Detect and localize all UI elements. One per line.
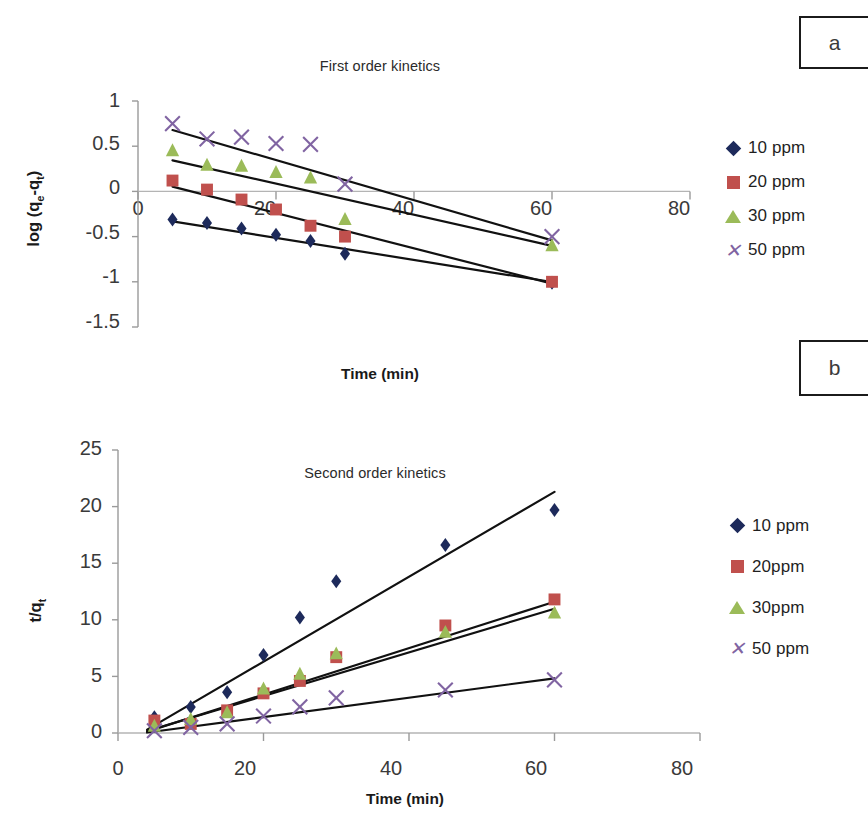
triangle-marker-icon [722,210,744,223]
legend-item-30ppm[interactable]: 30 ppm [722,199,805,233]
legend-label-10ppm-b: 10 ppm [752,516,809,536]
legend-item-20ppm-b[interactable]: 20ppm [726,546,809,587]
legend-item-10ppm[interactable]: 10 ppm [722,131,805,165]
legend-label-30ppm-b: 30ppm [752,598,804,618]
chart-a-legend: 10 ppm 20 ppm 30 ppm ✕ 50 ppm [722,131,805,267]
legend-label-50ppm-b: 50 ppm [752,639,809,659]
legend-label-20ppm: 20 ppm [748,172,805,192]
cross-marker-icon: ✕ [722,241,744,260]
legend-item-50ppm[interactable]: ✕ 50 ppm [722,233,805,267]
legend-label-20ppm-b: 20ppm [752,557,804,577]
legend-item-10ppm-b[interactable]: 10 ppm [726,505,809,546]
legend-label-30ppm: 30 ppm [748,206,805,226]
legend-label-50ppm: 50 ppm [748,240,805,260]
legend-item-50ppm-b[interactable]: ✕ 50 ppm [726,628,809,669]
diamond-marker-icon [726,520,748,531]
square-marker-icon [726,560,748,573]
legend-item-20ppm[interactable]: 20 ppm [722,165,805,199]
cross-marker-icon: ✕ [726,639,748,658]
triangle-marker-icon [726,601,748,614]
legend-label-10ppm: 10 ppm [748,138,805,158]
square-marker-icon [722,176,744,189]
legend-item-30ppm-b[interactable]: 30ppm [726,587,809,628]
chart-b-legend: 10 ppm 20ppm 30ppm ✕ 50 ppm [726,505,809,669]
diamond-marker-icon [722,143,744,154]
